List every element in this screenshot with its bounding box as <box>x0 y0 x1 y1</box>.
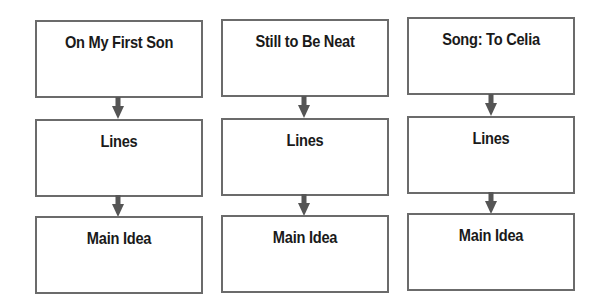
arrow-down-icon <box>485 192 497 214</box>
main-idea-box: Main Idea <box>221 215 389 293</box>
lines-box: Lines <box>35 119 203 197</box>
lines-box: Lines <box>407 116 575 194</box>
poem-analysis-diagram: On My First Son Lines Main Idea Still to… <box>0 0 605 307</box>
arrow-down-icon <box>298 96 310 118</box>
lines-label: Lines <box>234 131 375 151</box>
arrow-down-icon <box>485 94 497 116</box>
arrow-down-icon <box>112 97 124 119</box>
lines-label: Lines <box>420 129 561 149</box>
poem-title: Still to Be Neat <box>234 32 375 52</box>
lines-box: Lines <box>221 118 389 196</box>
main-idea-box: Main Idea <box>407 213 575 291</box>
poem-title: Song: To Celia <box>420 30 561 50</box>
main-idea-label: Main Idea <box>420 226 561 246</box>
main-idea-label: Main Idea <box>234 228 375 248</box>
poem-title-box: Still to Be Neat <box>221 19 389 97</box>
main-idea-box: Main Idea <box>35 216 203 294</box>
poem-title: On My First Son <box>48 33 189 53</box>
main-idea-label: Main Idea <box>48 229 189 249</box>
arrow-down-icon <box>112 195 124 217</box>
arrow-down-icon <box>298 194 310 216</box>
poem-title-box: On My First Son <box>35 20 203 98</box>
poem-title-box: Song: To Celia <box>407 17 575 95</box>
lines-label: Lines <box>48 132 189 152</box>
